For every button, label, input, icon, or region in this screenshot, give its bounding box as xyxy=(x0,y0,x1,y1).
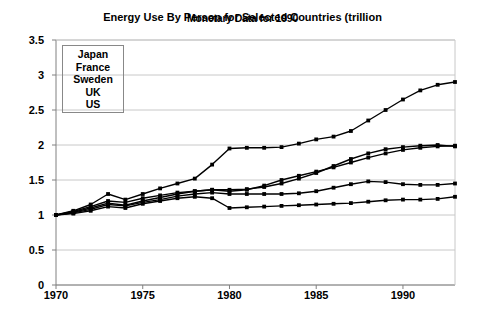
x-axis-tick-label: 1985 xyxy=(293,290,339,301)
data-point-marker xyxy=(436,83,440,87)
data-point-marker xyxy=(384,180,388,184)
legend-item-sweden: Sweden xyxy=(63,73,123,86)
data-point-marker xyxy=(314,138,318,142)
series-line-uk xyxy=(56,181,455,215)
data-point-marker xyxy=(453,195,457,199)
y-axis-tick-label: 2.5 xyxy=(10,105,44,116)
data-point-marker xyxy=(349,157,353,161)
data-point-marker xyxy=(401,98,405,102)
y-axis-tick-label: 0 xyxy=(10,280,44,291)
data-point-marker xyxy=(193,177,197,181)
data-point-marker xyxy=(228,206,232,210)
chart-container: Energy Use By Person for Selected Countr… xyxy=(0,0,485,317)
y-axis-tick-label: 1 xyxy=(10,210,44,221)
data-point-marker xyxy=(401,145,405,149)
data-point-marker xyxy=(176,196,180,200)
data-point-marker xyxy=(401,198,405,202)
data-point-marker xyxy=(453,145,457,149)
data-point-marker xyxy=(280,182,284,186)
data-point-marker xyxy=(280,178,284,182)
y-axis-tick-label: 3.5 xyxy=(10,35,44,46)
x-axis-tick-label: 1980 xyxy=(206,290,252,301)
data-point-marker xyxy=(453,80,457,84)
data-point-marker xyxy=(245,187,249,191)
legend-item-japan: Japan xyxy=(63,48,123,61)
data-point-marker xyxy=(123,206,127,210)
data-point-marker xyxy=(141,192,145,196)
data-point-marker xyxy=(384,147,388,151)
data-point-marker xyxy=(349,201,353,205)
data-point-marker xyxy=(158,194,162,198)
data-point-marker xyxy=(280,204,284,208)
data-point-marker xyxy=(332,164,336,168)
data-point-marker xyxy=(210,196,214,200)
series-line-us xyxy=(56,197,455,215)
data-point-marker xyxy=(366,200,370,204)
data-point-marker xyxy=(332,186,336,190)
data-point-marker xyxy=(384,108,388,112)
data-point-marker xyxy=(262,192,266,196)
data-point-marker xyxy=(54,213,58,217)
x-axis-tick-label: 1975 xyxy=(120,290,166,301)
data-point-marker xyxy=(141,196,145,200)
data-point-marker xyxy=(366,156,370,160)
y-axis-tick-labels: 00.511.522.533.5 xyxy=(8,0,44,317)
y-axis-tick-label: 0.5 xyxy=(10,245,44,256)
data-point-marker xyxy=(228,188,232,192)
data-point-marker xyxy=(245,146,249,150)
data-point-marker xyxy=(384,198,388,202)
data-point-marker xyxy=(436,143,440,147)
data-point-marker xyxy=(228,147,232,151)
data-point-marker xyxy=(262,185,266,189)
y-axis-tick-label: 1.5 xyxy=(10,175,44,186)
data-point-marker xyxy=(280,192,284,196)
data-point-marker xyxy=(418,183,422,187)
data-point-marker xyxy=(418,89,422,93)
data-point-marker xyxy=(349,182,353,186)
data-point-marker xyxy=(314,203,318,207)
x-axis-tick-label: 1990 xyxy=(380,290,426,301)
data-point-marker xyxy=(262,146,266,150)
data-point-marker xyxy=(332,135,336,139)
data-point-marker xyxy=(366,152,370,156)
data-point-marker xyxy=(71,212,75,216)
data-point-marker xyxy=(141,202,145,206)
data-point-marker xyxy=(349,161,353,165)
data-point-marker xyxy=(210,191,214,195)
data-point-marker xyxy=(176,191,180,195)
data-point-marker xyxy=(436,197,440,201)
y-axis-tick-label: 2 xyxy=(10,140,44,151)
data-point-marker xyxy=(453,182,457,186)
y-axis-tick-label: 3 xyxy=(10,70,44,81)
data-point-marker xyxy=(89,209,93,213)
data-point-marker xyxy=(314,189,318,193)
data-point-marker xyxy=(193,195,197,199)
data-point-marker xyxy=(297,191,301,195)
data-point-marker xyxy=(297,142,301,146)
chart-legend: Japan France Sweden UK US xyxy=(62,45,124,113)
data-point-marker xyxy=(384,152,388,156)
legend-item-france: France xyxy=(63,61,123,74)
data-point-marker xyxy=(176,182,180,186)
data-point-marker xyxy=(366,180,370,184)
data-point-marker xyxy=(158,187,162,191)
data-point-marker xyxy=(401,182,405,186)
data-point-marker xyxy=(245,205,249,209)
data-point-marker xyxy=(366,119,370,123)
data-point-marker xyxy=(210,163,214,167)
data-point-marker xyxy=(106,199,110,203)
data-point-marker xyxy=(314,171,318,175)
x-axis-tick-label: 1970 xyxy=(33,290,79,301)
legend-item-uk: UK xyxy=(63,86,123,99)
data-point-marker xyxy=(262,205,266,209)
data-point-marker xyxy=(297,177,301,181)
data-point-marker xyxy=(297,203,301,207)
data-point-marker xyxy=(106,205,110,209)
legend-item-us: US xyxy=(63,98,123,111)
data-point-marker xyxy=(418,198,422,202)
data-point-marker xyxy=(349,129,353,133)
data-point-marker xyxy=(228,192,232,196)
data-point-marker xyxy=(245,192,249,196)
data-point-marker xyxy=(332,202,336,206)
data-point-marker xyxy=(106,192,110,196)
